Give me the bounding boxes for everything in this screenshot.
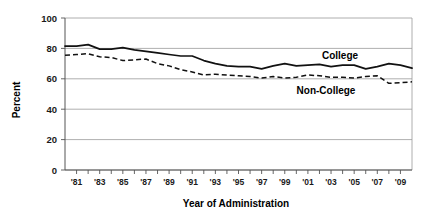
x-tick-label-83: '83 [94, 177, 106, 187]
chart-container: 020406080100 '81'83'85'87'89'91'93'95'97… [0, 0, 430, 223]
gridlines [65, 18, 412, 170]
x-tick-label-89: '89 [163, 177, 175, 187]
y-tick-label-0: 0 [52, 165, 57, 176]
y-tick-label-20: 20 [46, 134, 57, 145]
y-tick-label-60: 60 [46, 73, 57, 84]
series-label-non-college: Non-College [297, 85, 356, 96]
x-tick-label-97: '97 [256, 177, 268, 187]
x-tick-label-95: '95 [233, 177, 245, 187]
x-tick-label-05: '05 [348, 177, 360, 187]
line-chart: 020406080100 '81'83'85'87'89'91'93'95'97… [0, 0, 430, 223]
y-tick-label-80: 80 [46, 43, 57, 54]
x-tick-label-01: '01 [302, 177, 314, 187]
y-tick-label-40: 40 [46, 104, 57, 115]
x-tick-label-81: '81 [71, 177, 83, 187]
x-axis-tickmarks [77, 170, 401, 174]
x-tick-label-85: '85 [117, 177, 129, 187]
plot-frame [65, 18, 412, 170]
x-axis-tick-labels: '81'83'85'87'89'91'93'95'97'99'01'03'05'… [71, 177, 407, 187]
x-axis-title: Year of Administration [183, 198, 289, 209]
x-tick-label-07: '07 [372, 177, 384, 187]
y-axis-title: Percent [11, 81, 22, 118]
y-axis-tick-labels: 020406080100 [41, 13, 65, 176]
data-series [65, 45, 412, 84]
x-tick-label-09: '09 [395, 177, 407, 187]
y-tick-label-100: 100 [41, 13, 57, 24]
x-tick-label-91: '91 [186, 177, 198, 187]
x-tick-label-87: '87 [140, 177, 152, 187]
x-tick-label-93: '93 [210, 177, 222, 187]
x-tick-label-03: '03 [325, 177, 337, 187]
x-tick-label-99: '99 [279, 177, 291, 187]
series-label-college: College [322, 50, 359, 61]
